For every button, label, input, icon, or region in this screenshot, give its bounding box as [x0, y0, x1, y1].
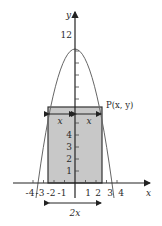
x-tick-label: -1	[58, 188, 67, 198]
x-tick-label: 2	[95, 188, 101, 198]
y-max-label: 12	[61, 30, 72, 40]
y-tick-label: 1	[66, 166, 72, 176]
y-tick-label: 2	[66, 154, 72, 164]
right-half-width-label: x	[86, 116, 91, 126]
parabola-rectangle-diagram: -4 -3 -2 -1 1 2 3 4 1 2 3 4 12 y x P(x, …	[0, 0, 162, 226]
x-tick-label: 1	[85, 188, 91, 198]
x-tick-label: -3	[36, 188, 45, 198]
x-axis-label: x	[146, 188, 151, 198]
y-axis-label: y	[65, 10, 72, 20]
x-tick-label: -4	[26, 188, 35, 198]
x-tick-label: -2	[47, 188, 56, 198]
point-p-label: P(x, y)	[106, 100, 133, 110]
y-tick-label: 3	[66, 142, 72, 152]
x-tick-label: 4	[118, 188, 124, 198]
left-half-width-label: x	[57, 116, 62, 126]
full-width-label: 2x	[69, 208, 81, 218]
x-tick-label: 3	[107, 188, 113, 198]
y-tick-label: 4	[66, 130, 72, 140]
